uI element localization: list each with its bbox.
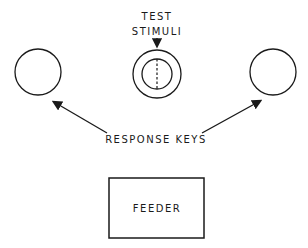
test-label: TEST	[141, 11, 173, 22]
stimuli-label: STIMULI	[132, 26, 182, 37]
right-response-key	[250, 49, 296, 95]
left-response-key	[15, 49, 61, 95]
feeder-label: FEEDER	[133, 203, 181, 214]
response-keys-label: RESPONSE KEYS	[105, 134, 207, 145]
apparatus-diagram: TEST STIMULI RESPONSE KEYS FEEDER	[0, 0, 308, 248]
right-key-arrow	[202, 101, 260, 133]
left-key-arrow	[54, 102, 107, 133]
test-stimuli-display	[133, 50, 181, 98]
